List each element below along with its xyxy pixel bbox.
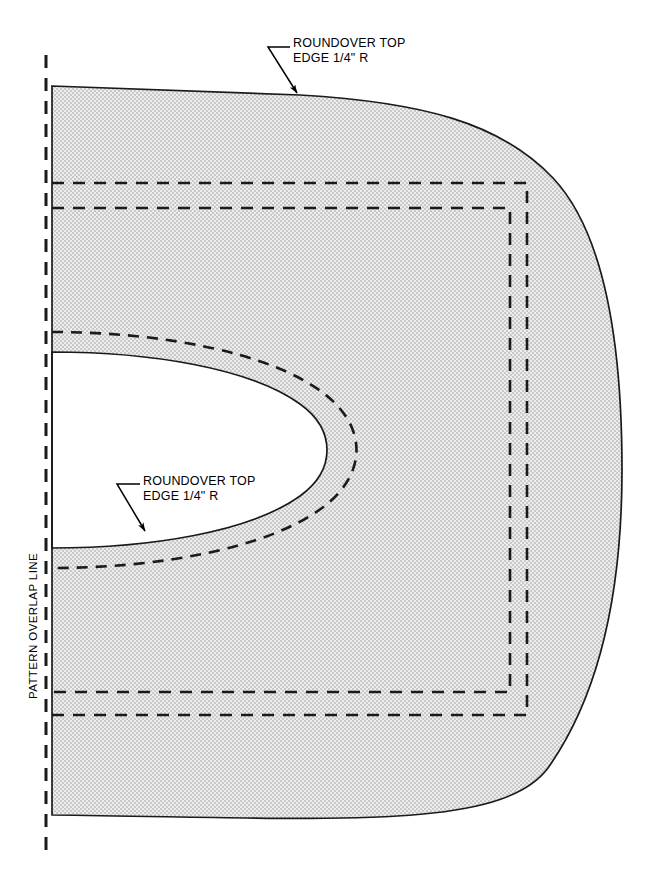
pattern-overlap-line-label: PATTERN OVERLAP LINE xyxy=(27,541,39,711)
annotation-roundover-top-label: ROUNDOVER TOP EDGE 1/4" R xyxy=(293,36,406,65)
drawing-svg xyxy=(0,0,653,893)
seat-blank-body xyxy=(0,0,653,893)
annotation-roundover-slot-label: ROUNDOVER TOP EDGE 1/4" R xyxy=(143,474,256,503)
technical-drawing-canvas: ROUNDOVER TOP EDGE 1/4" R ROUNDOVER TOP … xyxy=(0,0,653,893)
